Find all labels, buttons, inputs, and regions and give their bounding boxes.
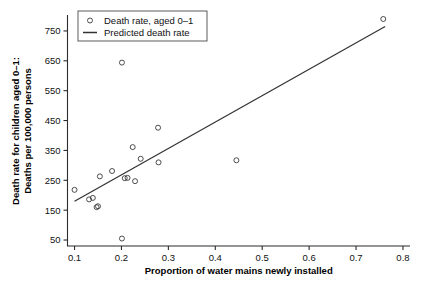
x-tick-label: 0.2	[115, 252, 128, 263]
data-point	[97, 174, 102, 179]
data-point	[133, 179, 138, 184]
x-tick-label: 0.5	[256, 252, 269, 263]
data-point	[156, 160, 161, 165]
x-tick-label: 0.6	[303, 252, 316, 263]
x-tick-label: 0.1	[68, 252, 81, 263]
y-tick-label: 50	[50, 234, 61, 245]
data-point	[72, 187, 77, 192]
data-point	[138, 156, 143, 161]
data-point	[95, 204, 100, 209]
y-axis-title-line1: Death rate for children aged 0–1:	[10, 57, 21, 205]
x-tick-label: 0.8	[396, 252, 409, 263]
regression-line	[75, 26, 386, 201]
y-tick-label: 750	[45, 25, 61, 36]
data-point	[110, 169, 115, 174]
x-tick-label: 0.3	[162, 252, 175, 263]
y-axis-title-line2: Deaths per 100,000 persons	[22, 68, 33, 194]
data-layer	[72, 16, 386, 241]
scatter-plot: 501502503504505506507500.10.20.30.40.50.…	[0, 0, 426, 290]
y-tick-label: 250	[45, 175, 61, 186]
data-point	[234, 158, 239, 163]
y-tick-label: 450	[45, 115, 61, 126]
chart-legend: Death rate, aged 0–1Predicted death rate	[78, 11, 207, 41]
y-tick-label: 150	[45, 205, 61, 216]
chart-figure: 501502503504505506507500.10.20.30.40.50.…	[0, 0, 426, 290]
axis-frame	[68, 15, 411, 246]
x-tick-label: 0.7	[349, 252, 362, 263]
axes: 501502503504505506507500.10.20.30.40.50.…	[45, 15, 410, 263]
data-point	[130, 145, 135, 150]
x-axis-title: Proportion of water mains newly installe…	[145, 265, 333, 276]
legend-label: Predicted death rate	[104, 27, 190, 38]
y-tick-label: 350	[45, 145, 61, 156]
data-point	[381, 16, 386, 21]
data-point	[119, 236, 124, 241]
data-point	[119, 60, 124, 65]
x-tick-label: 0.4	[209, 252, 222, 263]
data-point	[156, 125, 161, 130]
legend-label: Death rate, aged 0–1	[104, 15, 193, 26]
y-tick-label: 650	[45, 55, 61, 66]
y-tick-label: 550	[45, 85, 61, 96]
